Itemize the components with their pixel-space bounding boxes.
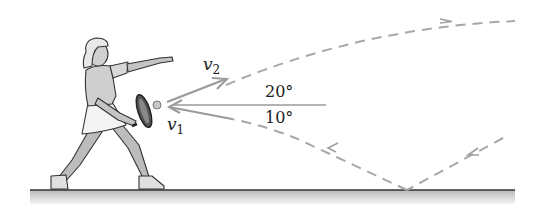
- v2-vector: [167, 78, 227, 102]
- ball: [153, 101, 161, 109]
- angle-20-label: 20°: [265, 82, 293, 101]
- tennis-player: [51, 38, 173, 189]
- trajectory-arrow-icon: [328, 143, 338, 152]
- trajectory-arrow-icon: [468, 148, 479, 155]
- angle-10-label: 10°: [265, 108, 293, 127]
- outgoing-trajectory: [226, 19, 515, 85]
- trajectory-arrow-icon: [440, 19, 452, 23]
- arrowhead-icon: [169, 100, 182, 113]
- v2-label: v2: [203, 54, 220, 77]
- v1-label: v1: [167, 114, 184, 137]
- tennis-return-diagram: v2 v1 20° 10°: [0, 0, 542, 208]
- incoming-trajectory: [232, 119, 503, 190]
- v1-vector: [169, 100, 232, 119]
- ground: [30, 190, 515, 204]
